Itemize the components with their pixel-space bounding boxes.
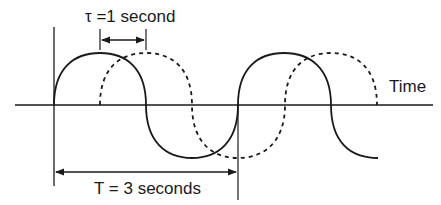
waveform-diagram: τ =1 second T = 3 seconds Time [0,0,441,205]
tau-label: τ =1 second [85,7,175,26]
time-axis-label: Time [389,77,426,96]
period-label: T = 3 seconds [94,179,201,198]
